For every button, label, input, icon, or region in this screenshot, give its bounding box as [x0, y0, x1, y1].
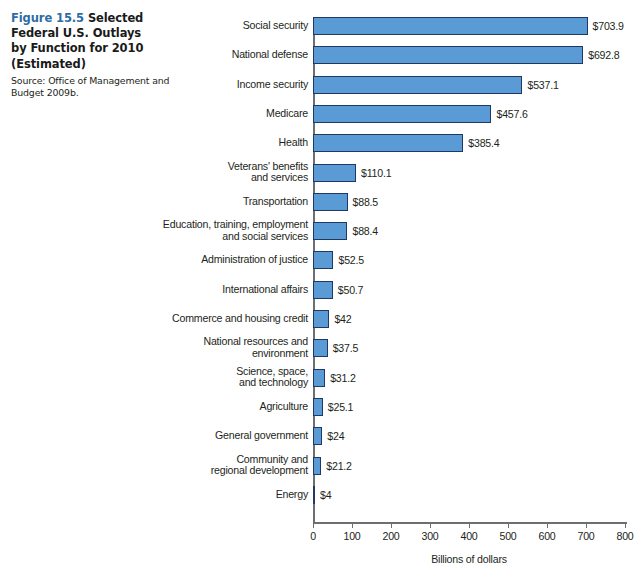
x-axis-tick	[391, 522, 392, 528]
bar	[313, 457, 321, 475]
x-axis-tick	[586, 522, 587, 528]
bar-row: Education, training, employment and soci…	[313, 222, 625, 240]
category-label: Income security	[237, 79, 308, 91]
bar-value-label: $537.1	[527, 79, 558, 91]
bar-value-label: $31.2	[330, 372, 356, 384]
bar	[313, 193, 348, 211]
bar-row: Agriculture$25.1	[313, 398, 625, 416]
x-axis-tick-label: 200	[382, 530, 399, 542]
bar-value-label: $50.7	[338, 284, 364, 296]
bar-value-label: $52.5	[338, 254, 364, 266]
x-axis-tick	[508, 522, 509, 528]
category-label: International affairs	[222, 284, 308, 296]
bar-row: Community and regional development$21.2	[313, 457, 625, 475]
bar	[313, 17, 588, 35]
bar-value-label: $110.1	[361, 167, 391, 179]
bar	[313, 281, 333, 299]
category-label: Agriculture	[260, 401, 308, 413]
x-axis-tick	[430, 522, 431, 528]
category-label: National resources and environment	[203, 337, 308, 361]
x-axis-tick-label: 600	[538, 530, 555, 542]
bar-row: Transportation$88.5	[313, 193, 625, 211]
category-label: Science, space, and technology	[236, 366, 308, 390]
category-label: Commerce and housing credit	[172, 313, 308, 325]
category-label: Social security	[243, 20, 308, 32]
x-axis-title: Billions of dollars	[313, 553, 625, 565]
bar	[313, 486, 315, 504]
bar-value-label: $88.5	[353, 196, 379, 208]
bar	[313, 369, 325, 387]
x-axis-tick	[469, 522, 470, 528]
category-label: Medicare	[266, 108, 308, 120]
bar	[313, 76, 522, 94]
category-label: Transportation	[243, 196, 308, 208]
bar	[313, 164, 356, 182]
bar-row: Commerce and housing credit$42	[313, 310, 625, 328]
bar	[313, 251, 333, 269]
category-label: Veterans' benefits and services	[228, 161, 308, 185]
bar-row: Veterans' benefits and services$110.1	[313, 164, 625, 182]
category-label: National defense	[232, 49, 308, 61]
bar-value-label: $37.5	[333, 342, 359, 354]
bar-row: Science, space, and technology$31.2	[313, 369, 625, 387]
x-axis-tick-label: 800	[616, 530, 633, 542]
bar	[313, 46, 583, 64]
x-axis-tick-label: 500	[499, 530, 516, 542]
bar-value-label: $21.2	[326, 460, 352, 472]
x-axis-tick	[352, 522, 353, 528]
x-axis-tick	[313, 522, 314, 528]
bar-value-label: $88.4	[352, 225, 378, 237]
bar-row: Social security$703.9	[313, 17, 625, 35]
plot-area: Social security$703.9National defense$69…	[313, 17, 625, 522]
bar-value-label: $385.4	[468, 137, 499, 149]
category-label: Health	[279, 137, 308, 149]
bar-row: Health$385.4	[313, 134, 625, 152]
category-label: General government	[215, 430, 308, 442]
category-label: Education, training, employment and soci…	[163, 219, 308, 243]
category-label: Energy	[276, 489, 308, 501]
value-axis-line	[313, 522, 627, 524]
bar-row: General government$24	[313, 427, 625, 445]
bar-value-label: $24	[327, 430, 344, 442]
bar-value-label: $42	[334, 313, 351, 325]
category-label: Community and regional development	[211, 454, 308, 478]
x-axis-tick-label: 0	[310, 530, 316, 542]
bar-row: Medicare$457.6	[313, 105, 625, 123]
bar	[313, 134, 463, 152]
bar	[313, 310, 329, 328]
x-axis-tick	[625, 522, 626, 528]
x-axis-tick-label: 100	[343, 530, 360, 542]
bar	[313, 339, 328, 357]
bar-value-label: $4	[320, 489, 331, 501]
bar-value-label: $692.8	[588, 49, 619, 61]
bar	[313, 105, 491, 123]
x-axis-tick-label: 300	[421, 530, 438, 542]
bar-row: National resources and environment$37.5	[313, 339, 625, 357]
bar-row: International affairs$50.7	[313, 281, 625, 299]
bar-row: Energy$4	[313, 486, 625, 504]
bar-value-label: $703.9	[593, 20, 624, 32]
bar-row: Income security$537.1	[313, 76, 625, 94]
category-label: Administration of justice	[201, 254, 308, 266]
x-axis-tick-label: 700	[577, 530, 594, 542]
bar-value-label: $25.1	[328, 401, 354, 413]
bar	[313, 222, 347, 240]
bar-row: National defense$692.8	[313, 46, 625, 64]
bar-row: Administration of justice$52.5	[313, 251, 625, 269]
x-axis-tick-label: 400	[460, 530, 477, 542]
bar	[313, 427, 322, 445]
bar-chart: Social security$703.9National defense$69…	[0, 0, 640, 587]
x-axis-tick	[547, 522, 548, 528]
bar-value-label: $457.6	[496, 108, 527, 120]
bar	[313, 398, 323, 416]
